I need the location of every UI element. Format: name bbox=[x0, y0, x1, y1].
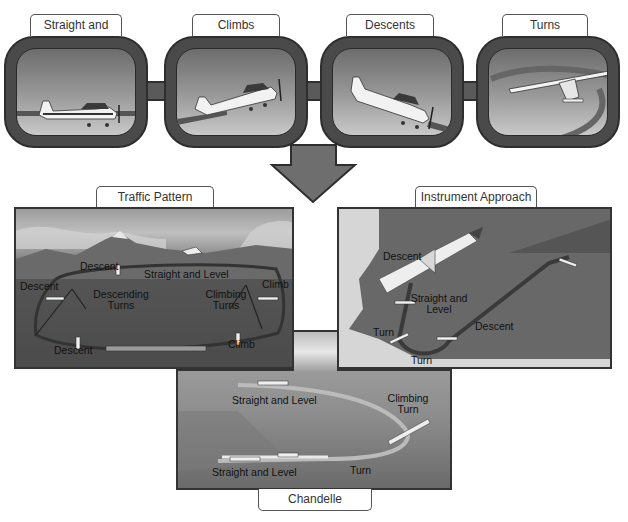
panel-climbs bbox=[164, 36, 308, 148]
label-turn-bottom: Turn bbox=[411, 355, 432, 366]
label-climb-bottom: Climb bbox=[228, 339, 255, 350]
panel-turns bbox=[476, 36, 620, 148]
airplane-climb-icon bbox=[177, 49, 296, 136]
instrument-approach-diagram bbox=[339, 209, 612, 369]
label-climb-right: Climb bbox=[262, 279, 289, 290]
panel-label-descents: Descents bbox=[346, 14, 434, 36]
instrument-approach-label: Instrument Approach bbox=[415, 186, 537, 208]
label-turn: Turn bbox=[378, 404, 438, 415]
panel-label-turns: Turns bbox=[502, 14, 588, 36]
traffic-pattern-label: Traffic Pattern bbox=[96, 186, 214, 208]
chandelle-label: Chandelle bbox=[258, 489, 372, 511]
label-straight-level-bottom: Straight and Level bbox=[212, 467, 297, 478]
airplane-level-icon bbox=[17, 49, 136, 136]
panel-label-straight-level: Straight and Level bbox=[30, 14, 122, 36]
label-descent-right: Descent bbox=[475, 321, 514, 332]
label-descent-top: Descent bbox=[383, 251, 422, 262]
label-descent-bottom: Descent bbox=[54, 345, 93, 356]
panel-descents bbox=[320, 36, 464, 148]
panel-straight-level bbox=[4, 36, 148, 148]
label-turns: Turns bbox=[86, 300, 156, 311]
label-climbing-turns: Climbing Turns bbox=[196, 289, 256, 311]
label-turn-left: Turn bbox=[373, 327, 394, 338]
panel-label-climbs: Climbs bbox=[192, 14, 280, 36]
traffic-pattern-scene: Descent Straight and Level Descent Desce… bbox=[14, 207, 294, 369]
label-descent-top: Descent bbox=[80, 261, 119, 272]
label-straight-level-top: Straight and Level bbox=[232, 395, 317, 406]
label-straight-and-level: Straight and Level bbox=[409, 293, 469, 315]
label-turns: Turns bbox=[196, 300, 256, 311]
airplane-turn-icon bbox=[489, 49, 608, 136]
label-straight-and-level: Straight and Level bbox=[144, 269, 229, 280]
label-turn: Turn bbox=[350, 465, 371, 476]
label-descending-turns: Descending Turns bbox=[86, 289, 156, 311]
airplane-descent-icon bbox=[333, 49, 452, 136]
label-level: Level bbox=[409, 304, 469, 315]
label-climbing-turn: Climbing Turn bbox=[378, 393, 438, 415]
instrument-approach-scene: Descent Straight and Level Turn Turn Des… bbox=[337, 207, 612, 369]
label-descent-left: Descent bbox=[20, 281, 59, 292]
chandelle-scene: Straight and Level Climbing Turn Straigh… bbox=[176, 369, 452, 490]
cloud-strip bbox=[294, 330, 337, 372]
